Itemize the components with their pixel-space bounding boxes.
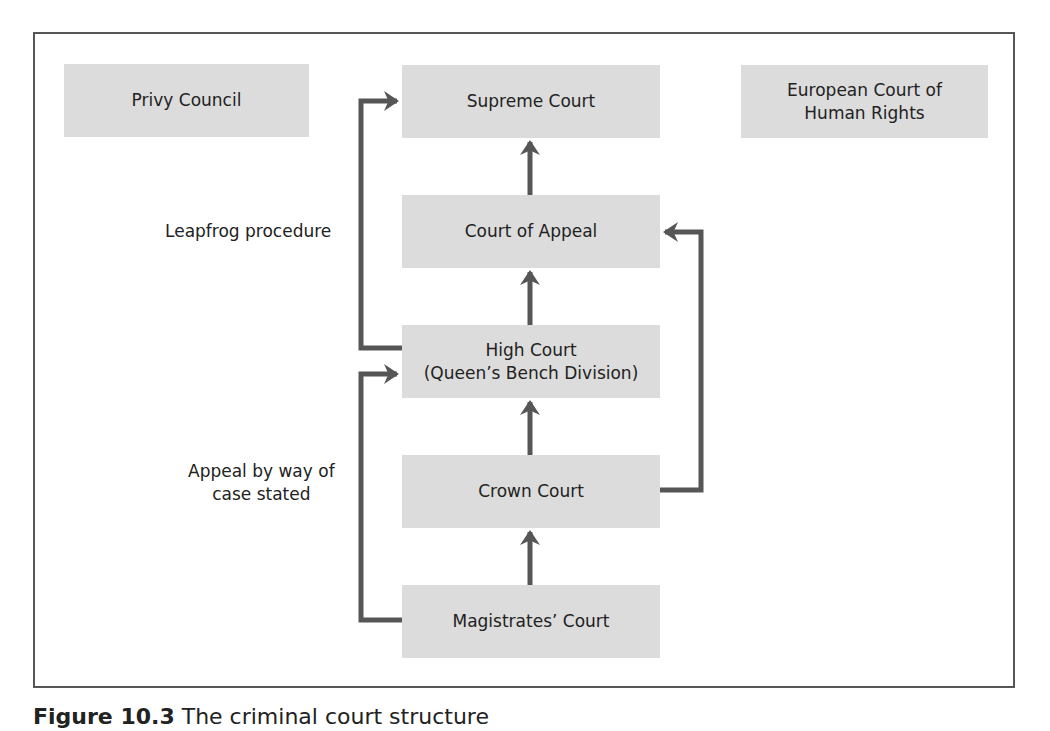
high-court-label-line1: High Court [485, 339, 576, 362]
privy-council-box: Privy Council [64, 64, 309, 137]
privy-council-label: Privy Council [132, 89, 242, 112]
echr-label-line1: European Court of [787, 79, 942, 102]
case-stated-label-line1: Appeal by way of [188, 460, 335, 483]
magistrates-court-box: Magistrates’ Court [402, 585, 660, 658]
case-stated-label-line2: case stated [188, 483, 335, 506]
court-of-appeal-box: Court of Appeal [402, 195, 660, 268]
high-court-box: High Court (Queen’s Bench Division) [402, 325, 660, 398]
crown-court-label: Crown Court [478, 480, 584, 503]
figure-caption-text: The criminal court structure [182, 704, 489, 729]
magistrates-court-label: Magistrates’ Court [452, 610, 609, 633]
high-court-label-line2: (Queen’s Bench Division) [424, 362, 639, 385]
echr-label-line2: Human Rights [804, 102, 924, 125]
echr-box: European Court of Human Rights [741, 65, 988, 138]
court-of-appeal-label: Court of Appeal [465, 220, 598, 243]
supreme-court-label: Supreme Court [467, 90, 596, 113]
crown-court-box: Crown Court [402, 455, 660, 528]
case-stated-label: Appeal by way of case stated [188, 460, 335, 506]
figure-number: Figure 10.3 [33, 704, 175, 729]
figure-caption: Figure 10.3 The criminal court structure [33, 703, 489, 731]
leapfrog-procedure-label: Leapfrog procedure [165, 220, 331, 243]
supreme-court-box: Supreme Court [402, 65, 660, 138]
